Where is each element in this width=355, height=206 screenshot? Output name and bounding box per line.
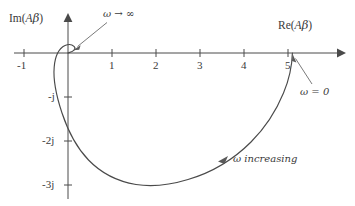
x-tick-label-3: 3 — [197, 60, 203, 71]
omega-zero-leader-line — [296, 59, 313, 85]
x-tick-label--1: -1 — [17, 60, 26, 71]
nyquist-locus-curve — [54, 45, 292, 186]
x-axis-title: Re(Aβ) — [278, 20, 312, 32]
y-axis-title-suffix: ) — [39, 12, 43, 24]
imaginary-axis-arrowhead — [64, 13, 73, 22]
y-tick-label--3j: -3j — [42, 179, 54, 190]
omega-increasing-label: ω increasing — [233, 154, 297, 164]
x-tick-label-4: 4 — [241, 60, 247, 71]
y-axis-title: Im(Aβ) — [9, 13, 43, 25]
omega-zero-label: ω = 0 — [300, 87, 329, 97]
omega-infinity-label: ω → ∞ — [103, 9, 134, 19]
real-axis-arrowhead — [337, 49, 346, 58]
omega-increasing-arrowhead — [218, 156, 228, 164]
x-tick-label-2: 2 — [153, 60, 159, 71]
y-axis-title-variable: A — [26, 12, 33, 24]
x-axis-title-suffix: ) — [308, 19, 312, 31]
omega-infinity-leader-line — [78, 23, 108, 47]
nyquist-plot-figure: Im(Aβ) Re(Aβ) -1 1 2 3 4 5 -j -2j -3j ω … — [0, 0, 355, 206]
y-tick-label--j: -j — [48, 91, 55, 102]
y-tick-label--2j: -2j — [42, 135, 54, 146]
omega-zero-arrowhead — [292, 54, 296, 63]
x-tick-label-1: 1 — [109, 60, 115, 71]
y-axis-title-prefix: Im( — [9, 12, 26, 24]
x-axis-title-variable: A — [295, 19, 302, 31]
x-tick-label-5: 5 — [285, 60, 291, 71]
x-axis-title-prefix: Re( — [278, 19, 295, 31]
